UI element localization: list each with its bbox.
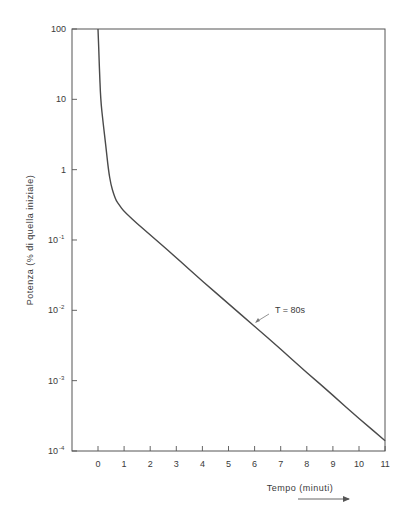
y-tick-exponent: -2 bbox=[59, 304, 65, 310]
x-tick-label: 2 bbox=[148, 459, 153, 469]
annotation-label: T = 80s bbox=[275, 305, 306, 315]
x-tick-label: 9 bbox=[330, 459, 335, 469]
x-tick-label: 10 bbox=[354, 459, 364, 469]
plot-frame bbox=[72, 29, 385, 451]
x-axis-ticks: 01234567891011 bbox=[95, 446, 389, 469]
y-tick-label: 10 bbox=[48, 376, 58, 386]
x-tick-label: 4 bbox=[200, 459, 205, 469]
y-tick-label: 10 bbox=[48, 305, 58, 315]
x-tick-label: 8 bbox=[304, 459, 309, 469]
x-tick-label: 1 bbox=[122, 459, 127, 469]
annotation-t80: T = 80s bbox=[255, 305, 306, 323]
y-tick-label: 10 bbox=[56, 94, 66, 104]
y-axis-ticks: 10010110-110-210-310-4 bbox=[48, 24, 77, 456]
y-tick-exponent: -3 bbox=[59, 375, 65, 381]
y-tick-label: 1 bbox=[61, 165, 66, 175]
y-tick-exponent: -1 bbox=[59, 234, 65, 240]
y-tick-label: 10 bbox=[48, 446, 58, 456]
x-tick-label: 0 bbox=[95, 459, 100, 469]
power-decay-curve bbox=[98, 29, 385, 441]
x-tick-label: 11 bbox=[380, 459, 389, 469]
y-axis-title: Potenza (% di quella iniziale) bbox=[25, 175, 35, 306]
chart-canvas: 10010110-110-210-310-4 01234567891011 T … bbox=[0, 0, 409, 526]
annotation-arrowhead-icon bbox=[255, 318, 260, 323]
x-tick-label: 6 bbox=[252, 459, 257, 469]
x-tick-label: 5 bbox=[226, 459, 231, 469]
y-tick-label: 10 bbox=[48, 235, 58, 245]
x-tick-label: 3 bbox=[174, 459, 179, 469]
x-axis-title: Tempo (minuti) bbox=[267, 483, 334, 493]
x-tick-label: 7 bbox=[278, 459, 283, 469]
y-tick-exponent: -4 bbox=[59, 445, 65, 451]
x-direction-arrow-icon bbox=[298, 496, 350, 502]
y-tick-label: 100 bbox=[51, 24, 66, 34]
